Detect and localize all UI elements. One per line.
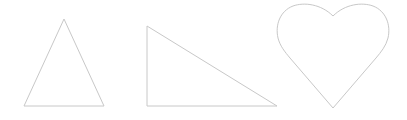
shapes-svg bbox=[0, 0, 407, 120]
shapes-canvas bbox=[0, 0, 407, 120]
heart-shape bbox=[277, 4, 389, 108]
triangle-shape bbox=[24, 19, 104, 106]
right-triangle-shape bbox=[147, 26, 277, 106]
